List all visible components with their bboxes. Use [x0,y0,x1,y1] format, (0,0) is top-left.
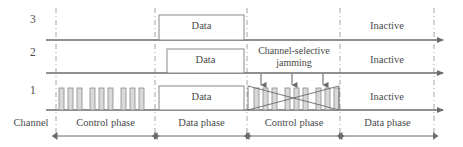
channel-2-label: 2 [30,46,36,58]
channel-1-data-text: Data [159,91,244,102]
pulse [59,88,64,110]
pulse [68,88,73,110]
pulse [90,88,95,110]
pulse [77,88,82,110]
control-pulses-left [59,88,144,110]
channel-1-label: 1 [30,84,36,96]
phase-label-data-1: Data phase [156,117,247,128]
pulse [108,88,113,110]
figure-canvas: 3 2 1 Data Data Data Inactive Inactive I… [0,0,463,147]
jamming-annotation-line1: Channel-selective [248,46,340,57]
channel-1-inactive-label: Inactive [340,91,434,102]
jamming-annotation-line2: jamming [248,58,340,69]
pulse [130,88,135,110]
pulse [99,88,104,110]
channel-2-inactive-label: Inactive [340,54,434,65]
phase-label-control-2: Control phase [248,117,340,128]
channel-2-data-text: Data [167,54,244,65]
channel-3-data-text: Data [159,20,244,31]
pulse [139,88,144,110]
pulse [334,88,339,110]
channel-3-label: 3 [30,13,36,25]
pulse [303,88,308,110]
phase-label-control-1: Control phase [56,117,155,128]
jamming-arrows [261,74,323,85]
pulse [254,88,259,110]
channel-3-inactive-label: Inactive [340,20,434,31]
channel-axis-label: Channel [6,117,56,128]
phase-label-data-2: Data phase [341,117,434,128]
pulse [272,88,277,110]
pulse [121,88,126,110]
